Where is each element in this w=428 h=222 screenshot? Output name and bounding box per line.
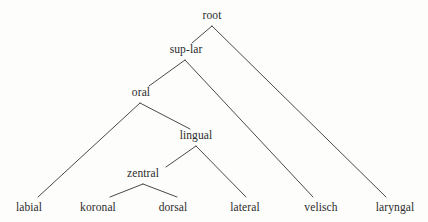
tree-node-oral: oral xyxy=(132,86,150,99)
tree-edge-lingual-to-lateral xyxy=(196,146,246,197)
tree-edge-oral-to-lingual xyxy=(140,103,190,129)
tree-edges-layer xyxy=(0,0,428,222)
phonological-feature-tree-diagram: root sup-lar oral lingual zentral labial… xyxy=(0,0,428,222)
tree-node-zentral: zentral xyxy=(127,167,159,180)
tree-edge-lingual-to-zentral xyxy=(166,146,196,167)
tree-leaf-dorsal: dorsal xyxy=(159,201,188,214)
tree-node-root: root xyxy=(203,9,222,22)
tree-edge-root-to-laryngal xyxy=(212,26,386,197)
tree-node-sup-lar: sup-lar xyxy=(170,43,203,56)
tree-leaf-koronal: koronal xyxy=(80,201,116,214)
tree-leaf-laryngal: laryngal xyxy=(376,201,414,214)
tree-leaf-labial: labial xyxy=(16,201,42,214)
tree-edge-zentral-to-dorsal xyxy=(143,184,177,197)
tree-edge-sup_lar-to-oral xyxy=(149,60,185,86)
tree-edge-root-to-sup_lar xyxy=(192,26,212,43)
tree-leaf-lateral: lateral xyxy=(230,201,259,214)
tree-node-lingual: lingual xyxy=(180,129,213,142)
tree-leaf-velisch: velisch xyxy=(304,201,337,214)
tree-edge-zentral-to-koronal xyxy=(110,184,143,197)
tree-edge-oral-to-labial xyxy=(38,103,140,197)
